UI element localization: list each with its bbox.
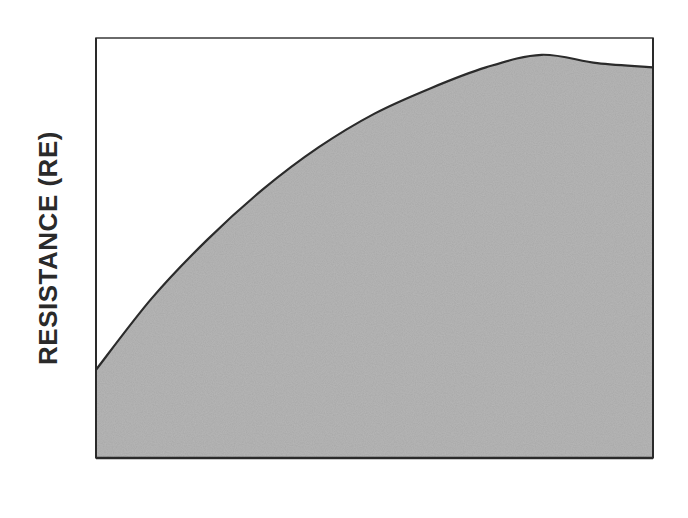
chart-plot xyxy=(0,0,688,518)
